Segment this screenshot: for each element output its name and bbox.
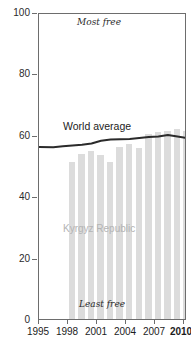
- y-axis-tick-100: [32, 13, 37, 14]
- y-axis-tick-20: [32, 259, 37, 260]
- y-axis-label-20: 20: [0, 254, 30, 264]
- x-axis-tick-2004: [125, 320, 126, 324]
- world-average-path: [39, 135, 186, 147]
- chart-container: 100 80 60 40 20 0 Most free Least free K…: [0, 0, 191, 343]
- x-axis-label-2010: 2010: [166, 326, 191, 337]
- y-axis-label-100: 100: [0, 8, 30, 18]
- y-axis-tick-60: [32, 136, 37, 137]
- annotation-most-free: Most free: [77, 17, 121, 27]
- x-axis-tick-2007: [154, 320, 155, 324]
- x-axis-label-2001: 2001: [81, 326, 111, 337]
- x-axis-label-1995: 1995: [23, 326, 53, 337]
- plot-area: Most free Least free Kyrgyz Republic Wor…: [38, 13, 186, 320]
- y-axis-label-60: 60: [0, 131, 30, 141]
- y-axis-tick-80: [32, 74, 37, 75]
- y-axis-label-0: 0: [0, 315, 30, 325]
- x-axis-label-2004: 2004: [110, 326, 140, 337]
- x-axis-tick-1995: [38, 320, 39, 324]
- series-label-world-average: World average: [63, 120, 131, 132]
- y-axis-label-80: 80: [0, 69, 30, 79]
- x-axis-tick-2010: [183, 320, 184, 324]
- x-axis-tick-2001: [96, 320, 97, 324]
- x-axis-tick-1998: [67, 320, 68, 324]
- line-series-world-average: [39, 14, 186, 320]
- annotation-least-free: Least free: [79, 299, 125, 309]
- x-axis-label-1998: 1998: [52, 326, 82, 337]
- y-axis-label-40: 40: [0, 192, 30, 202]
- x-axis-label-2007: 2007: [139, 326, 169, 337]
- y-axis-tick-40: [32, 197, 37, 198]
- series-label-kyrgyz-republic: Kyrgyz Republic: [63, 223, 135, 234]
